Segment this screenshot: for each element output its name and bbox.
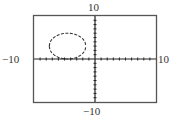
circle-lower-half (49, 46, 86, 59)
axes (34, 16, 156, 102)
graph-window (0, 0, 176, 128)
circle-curve (49, 33, 86, 59)
circle-upper-half (49, 33, 86, 46)
